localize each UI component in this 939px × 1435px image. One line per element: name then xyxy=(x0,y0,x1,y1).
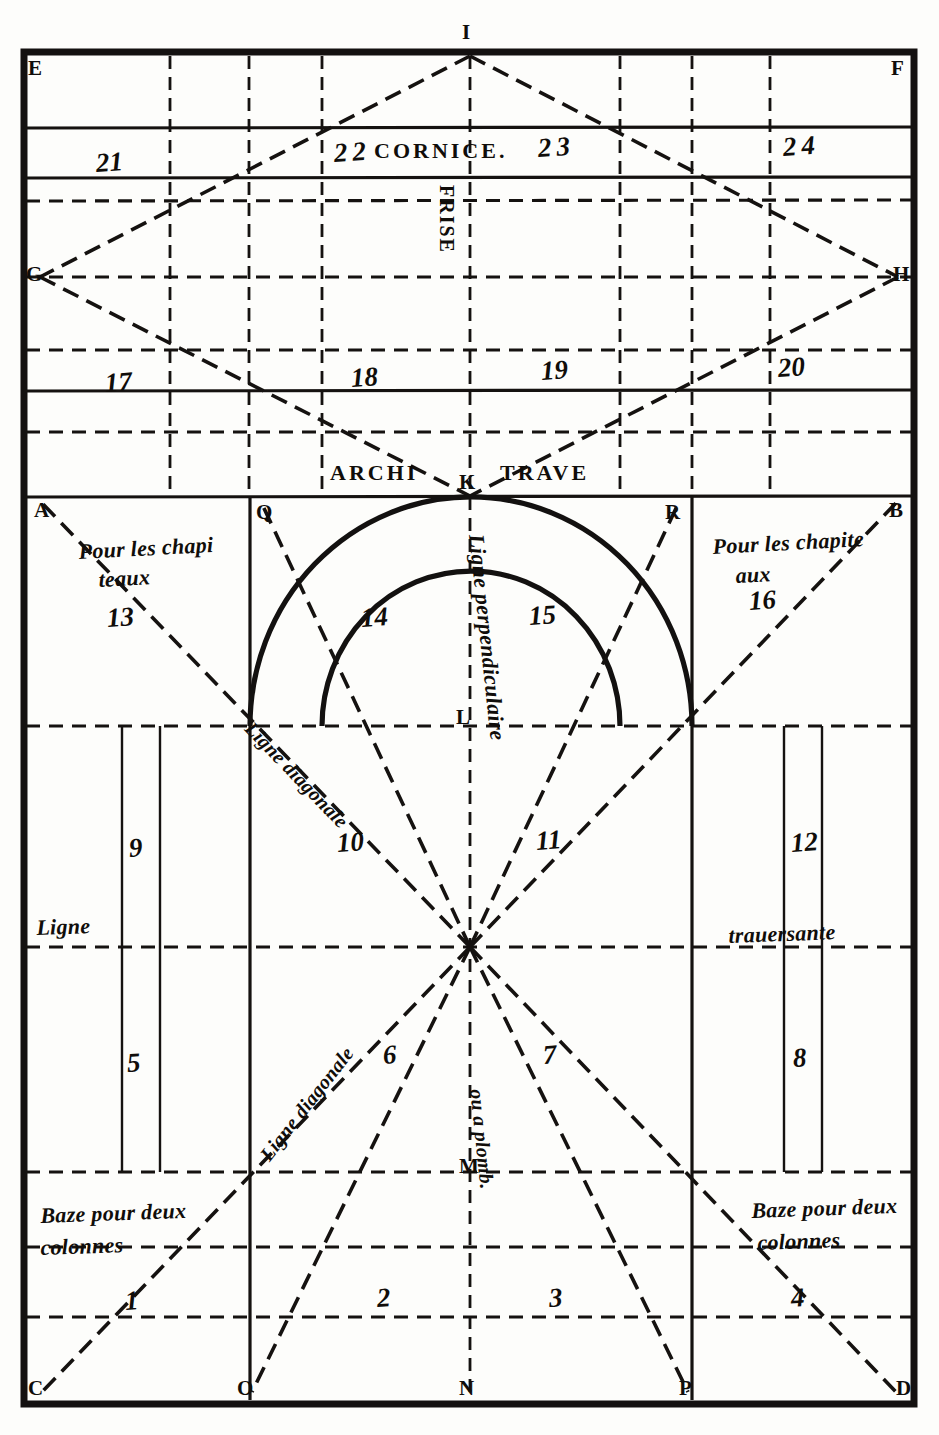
point-label-N: N xyxy=(459,1378,475,1399)
engraving-plate: .solid { stroke:#151210; fill:none; stro… xyxy=(0,0,939,1435)
note-baze-right-line2: colonnes xyxy=(757,1229,841,1254)
numeral-17: 17 xyxy=(104,368,133,397)
numeral-7: 7 xyxy=(542,1041,557,1069)
point-label-H: H xyxy=(893,264,910,285)
point-label-D: D xyxy=(896,1378,912,1399)
numeral-10: 10 xyxy=(336,828,365,857)
numeral-15: 15 xyxy=(528,601,557,630)
point-label-P: P xyxy=(679,1378,692,1399)
numeral-11: 11 xyxy=(535,826,562,855)
numeral-5: 5 xyxy=(126,1049,141,1077)
note-baze-left-line1: Baze pour deux xyxy=(40,1200,187,1227)
note-baze-right-line1: Baze pour deux xyxy=(751,1195,898,1222)
numeral-12: 12 xyxy=(790,828,819,857)
inscription-cornice: CORNICE. xyxy=(374,140,507,162)
numeral-9: 9 xyxy=(128,834,143,862)
numeral-18: 18 xyxy=(350,363,379,392)
point-label-A: A xyxy=(34,500,50,521)
numeral-20: 20 xyxy=(777,353,806,382)
point-label-L: L xyxy=(456,707,471,728)
point-label-F: F xyxy=(891,58,904,79)
numeral-23: 23 xyxy=(537,132,576,162)
point-label-E: E xyxy=(28,58,43,79)
inscription-architrave-left: ARCHI xyxy=(330,462,418,484)
numeral-2: 2 xyxy=(376,1284,391,1312)
inscription-architrave-right: TRAVE xyxy=(500,462,589,484)
note-chapiteaux-right-line2: aux xyxy=(735,563,771,587)
note-chapiteaux-left-line2: teaux xyxy=(98,566,151,591)
numeral-13: 13 xyxy=(106,603,135,632)
numeral-3: 3 xyxy=(548,1284,563,1312)
numeral-8: 8 xyxy=(792,1044,807,1072)
numeral-1: 1 xyxy=(124,1287,139,1315)
note-trauersante: trauersante xyxy=(728,921,836,947)
note-ligne: Ligne xyxy=(36,915,91,939)
point-label-C: C xyxy=(28,1378,44,1399)
point-label-I: I xyxy=(462,22,471,43)
point-label-R: R xyxy=(665,502,681,523)
numeral-21: 21 xyxy=(95,148,124,177)
numeral-14: 14 xyxy=(360,603,389,632)
numeral-24: 24 xyxy=(782,131,821,161)
point-label-B: B xyxy=(889,500,904,521)
point-label-K: K xyxy=(459,472,476,493)
inscription-frise: FRISE xyxy=(437,185,457,395)
numeral-19: 19 xyxy=(540,356,569,385)
numeral-4: 4 xyxy=(790,1284,805,1312)
point-label-G: G xyxy=(26,264,43,285)
note-baze-left-line2: colonnes xyxy=(40,1234,124,1259)
numeral-22: 22 xyxy=(333,137,372,167)
point-label-Q: Q xyxy=(256,502,273,523)
numeral-6: 6 xyxy=(382,1041,397,1069)
point-label-O: O xyxy=(237,1378,254,1399)
numeral-16: 16 xyxy=(748,586,777,615)
